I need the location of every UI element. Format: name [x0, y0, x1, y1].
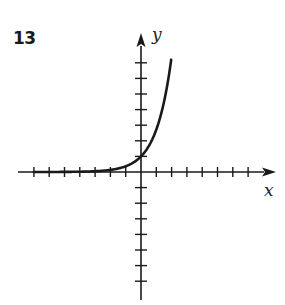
x-axis-arrow-icon: [262, 168, 276, 177]
axes: [18, 33, 276, 300]
coordinate-plane: x y: [0, 0, 285, 305]
y-axis-arrow-icon: [137, 33, 146, 47]
y-axis-label: y: [151, 24, 162, 44]
x-axis-label: x: [264, 180, 274, 200]
exponential-curve: [34, 60, 171, 172]
